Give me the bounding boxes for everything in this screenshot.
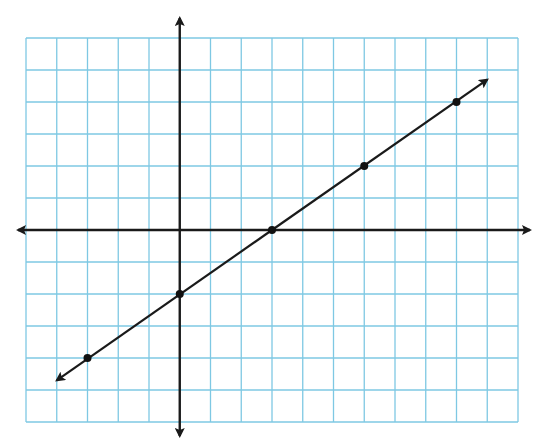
coordinate-plane: [0, 0, 542, 448]
data-point: [360, 162, 368, 170]
data-point: [176, 290, 184, 298]
graph-stage: Coordinate grid with line: [0, 0, 542, 448]
data-point: [84, 354, 92, 362]
data-point: [453, 98, 461, 106]
data-point: [268, 226, 276, 234]
